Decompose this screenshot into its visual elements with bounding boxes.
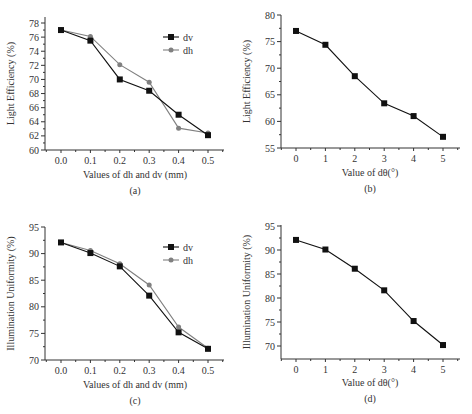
chart-panel-c: 7075808590950.00.10.20.30.40.5Values of … <box>5 222 224 408</box>
y-tick-label: 55 <box>265 143 275 154</box>
y-tick-label: 90 <box>29 248 39 259</box>
data-point-square <box>176 112 182 118</box>
y-tick-label: 75 <box>265 317 275 328</box>
x-axis-label: Values of dh and dv (mm) <box>83 379 187 391</box>
x-tick-label: 0.0 <box>55 365 68 376</box>
data-point-circle <box>176 126 181 131</box>
data-point-square <box>87 250 93 256</box>
legend-marker-circle <box>169 48 174 53</box>
x-tick-label: 1 <box>323 364 328 375</box>
x-tick-label: 0 <box>294 153 299 164</box>
x-tick-label: 0.4 <box>172 155 185 166</box>
y-tick-label: 78 <box>29 18 39 29</box>
data-point-square <box>205 132 211 138</box>
y-tick-label: 80 <box>29 301 39 312</box>
chart-panel-d: 707580859095012345Value of dθ(°)Illumina… <box>241 221 460 406</box>
series-line-dθ <box>296 240 443 345</box>
data-point-circle <box>147 282 152 287</box>
x-axis-label: Value of dθ(°) <box>342 377 399 389</box>
x-tick-label: 0.1 <box>84 155 97 166</box>
data-point-square <box>381 287 387 293</box>
y-tick-label: 64 <box>29 116 39 127</box>
data-point-square <box>117 76 123 82</box>
legend-label: dv <box>183 242 193 253</box>
x-axis-label: Values of dh and dv (mm) <box>83 169 187 181</box>
y-tick-label: 76 <box>29 32 39 43</box>
panel-caption: (b) <box>364 183 376 195</box>
y-tick-label: 74 <box>29 46 39 57</box>
legend-marker-square <box>168 34 174 40</box>
y-axis-label: Light Efficiency (%) <box>5 42 17 125</box>
y-tick-label: 66 <box>29 102 39 113</box>
x-tick-label: 1 <box>323 153 328 164</box>
x-tick-label: 2 <box>352 153 357 164</box>
y-tick-label: 65 <box>265 89 275 100</box>
data-point-square <box>146 293 152 299</box>
data-point-square <box>58 239 64 245</box>
legend-label: dh <box>183 45 193 56</box>
y-axis-label: Illumination Uniformity (%) <box>241 235 253 349</box>
x-axis-label: Value of dθ(°) <box>342 167 399 179</box>
data-point-square <box>58 27 64 33</box>
data-point-square <box>381 100 387 106</box>
x-tick-label: 4 <box>411 153 416 164</box>
y-tick-label: 72 <box>29 60 39 71</box>
y-axis-label: Light Efficiency (%) <box>241 40 253 123</box>
data-point-square <box>440 342 446 348</box>
data-point-square <box>205 346 211 352</box>
x-tick-label: 0.5 <box>202 155 215 166</box>
y-tick-label: 75 <box>29 328 39 339</box>
series-line-dθ <box>296 31 443 137</box>
data-point-square <box>117 263 123 269</box>
y-tick-label: 75 <box>265 36 275 47</box>
data-point-square <box>322 42 328 48</box>
data-point-square <box>293 28 299 34</box>
y-tick-label: 70 <box>265 63 275 74</box>
y-tick-label: 85 <box>265 269 275 280</box>
legend-label: dv <box>183 32 193 43</box>
legend: dvdh <box>163 242 193 266</box>
data-point-square <box>293 237 299 243</box>
panel-caption: (a) <box>129 185 140 197</box>
chart-panel-b: 556065707580012345Value of dθ(°)Light Ef… <box>241 10 460 196</box>
x-tick-label: 0.3 <box>143 365 156 376</box>
y-tick-label: 80 <box>265 293 275 304</box>
y-tick-label: 70 <box>29 74 39 85</box>
y-tick-label: 68 <box>29 88 39 99</box>
x-tick-label: 2 <box>352 364 357 375</box>
y-tick-label: 80 <box>265 10 275 21</box>
y-tick-label: 70 <box>29 355 39 366</box>
panel-caption: (d) <box>364 393 376 405</box>
legend-marker-circle <box>169 258 174 263</box>
y-tick-label: 60 <box>265 116 275 127</box>
data-point-circle <box>147 80 152 85</box>
x-tick-label: 5 <box>441 153 446 164</box>
x-tick-label: 5 <box>441 364 446 375</box>
data-point-square <box>87 38 93 44</box>
legend-label: dh <box>183 255 193 266</box>
legend-marker-square <box>168 244 174 250</box>
data-point-square <box>352 266 358 272</box>
x-tick-label: 3 <box>382 153 387 164</box>
x-tick-label: 4 <box>411 364 416 375</box>
x-tick-label: 0.2 <box>114 365 127 376</box>
y-tick-label: 90 <box>265 245 275 256</box>
x-tick-label: 0.2 <box>114 155 127 166</box>
y-tick-label: 95 <box>29 222 39 233</box>
data-point-square <box>176 329 182 335</box>
data-point-square <box>322 247 328 253</box>
y-tick-label: 95 <box>265 221 275 232</box>
x-tick-label: 0.4 <box>172 365 185 376</box>
panel-caption: (c) <box>129 395 140 407</box>
x-tick-label: 0.3 <box>143 155 156 166</box>
y-tick-label: 60 <box>29 145 39 156</box>
y-tick-label: 70 <box>265 341 275 352</box>
y-axis-label: Illumination Uniformity (%) <box>5 236 17 350</box>
y-tick-label: 62 <box>29 130 39 141</box>
data-point-square <box>411 318 417 324</box>
data-point-square <box>352 73 358 79</box>
figure-canvas: 606264666870727476780.00.10.20.30.40.5Va… <box>0 0 472 414</box>
x-tick-label: 0.0 <box>55 155 68 166</box>
x-tick-label: 0.1 <box>84 365 97 376</box>
x-tick-label: 0 <box>294 364 299 375</box>
